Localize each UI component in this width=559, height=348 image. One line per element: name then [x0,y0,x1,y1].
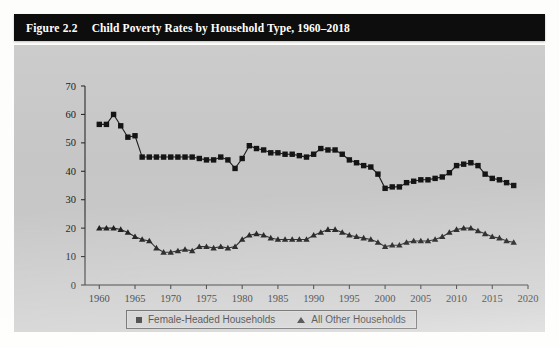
square-data-point [325,147,330,152]
square-data-point [290,152,295,157]
y-tick-label: 0 [71,280,76,291]
square-data-point [432,176,437,181]
square-data-point [104,122,109,127]
y-tick-label: 20 [66,223,77,234]
square-data-point [454,163,459,168]
square-data-point [482,171,487,176]
square-data-point [154,154,159,159]
legend-label-female-headed: Female-Headed Households [148,314,275,325]
x-tick-label: 1995 [339,293,360,304]
legend-item-female-headed: Female-Headed Households [136,314,275,325]
triangle-data-point [132,233,138,239]
square-data-point [182,154,187,159]
figure-title: Child Poverty Rates by Household Type, 1… [92,22,350,34]
square-data-point [368,164,373,169]
x-tick-label: 2020 [518,293,539,304]
square-data-point [440,174,445,179]
square-data-point [390,184,395,189]
line-chart: 0102030405060701960196519701975198019851… [14,45,545,332]
x-tick-label: 1960 [89,293,110,304]
square-data-point [497,177,502,182]
square-data-point [461,161,466,166]
square-data-point [318,146,323,151]
square-data-point [447,170,452,175]
square-data-point [304,154,309,159]
square-data-point [475,163,480,168]
square-data-point [468,160,473,165]
square-data-point [275,150,280,155]
triangle-data-point [218,243,224,249]
square-data-point [397,184,402,189]
square-data-point [139,154,144,159]
figure-title-bar: Figure 2.2 Child Poverty Rates by Househ… [14,14,545,41]
triangle-data-point [182,246,188,252]
square-data-point [254,146,259,151]
square-data-point [418,177,423,182]
square-data-point [375,171,380,176]
y-tick-label: 10 [66,251,77,262]
square-data-point [125,134,130,139]
y-tick-label: 30 [66,194,77,205]
x-tick-label: 1980 [232,293,253,304]
square-data-point [382,186,387,191]
square-data-point [361,163,366,168]
y-tick-label: 40 [66,166,77,177]
x-tick-label: 1975 [196,293,217,304]
figure-number: Figure 2.2 [26,22,78,34]
square-data-point [211,157,216,162]
triangle-data-point [239,236,245,242]
square-data-point [504,180,509,185]
square-data-point [204,157,209,162]
square-data-point [168,154,173,159]
x-tick-label: 2015 [482,293,503,304]
legend-label-all-other: All Other Households [311,314,406,325]
figure-container: Figure 2.2 Child Poverty Rates by Househ… [14,14,545,332]
square-data-point [340,152,345,157]
x-tick-label: 2000 [375,293,396,304]
y-tick-label: 50 [66,137,77,148]
y-tick-label: 70 [66,81,77,92]
square-data-point [411,179,416,184]
square-data-point [189,154,194,159]
square-data-point [311,152,316,157]
square-data-point [490,176,495,181]
square-data-point [297,153,302,158]
square-data-point [197,156,202,161]
x-tick-label: 1965 [125,293,146,304]
series-line-female-headed [99,114,513,188]
square-data-point [332,147,337,152]
square-data-point [111,112,116,117]
square-data-point [282,152,287,157]
x-tick-label: 2005 [410,293,431,304]
chart-legend: Female-Headed Households All Other House… [126,310,417,329]
legend-item-all-other: All Other Households [297,314,406,325]
triangle-data-point [439,233,445,239]
triangle-marker-icon [297,317,305,323]
x-tick-label: 2010 [446,293,467,304]
square-data-point [161,154,166,159]
square-data-point [118,123,123,128]
square-data-point [132,133,137,138]
square-data-point [511,183,516,188]
x-tick-label: 1990 [303,293,324,304]
square-data-point [175,154,180,159]
square-data-point [268,150,273,155]
triangle-data-point [253,231,259,237]
chart-panel: 0102030405060701960196519701975198019851… [14,45,545,332]
square-data-point [261,147,266,152]
y-tick-label: 60 [66,109,77,120]
square-marker-icon [136,317,142,323]
square-data-point [97,122,102,127]
square-data-point [218,154,223,159]
square-data-point [425,177,430,182]
square-data-point [404,180,409,185]
x-tick-label: 1970 [160,293,181,304]
square-data-point [225,157,230,162]
square-data-point [347,157,352,162]
x-tick-label: 1985 [267,293,288,304]
square-data-point [354,160,359,165]
square-data-point [239,156,244,161]
square-data-point [232,166,237,171]
square-data-point [247,143,252,148]
square-data-point [147,154,152,159]
